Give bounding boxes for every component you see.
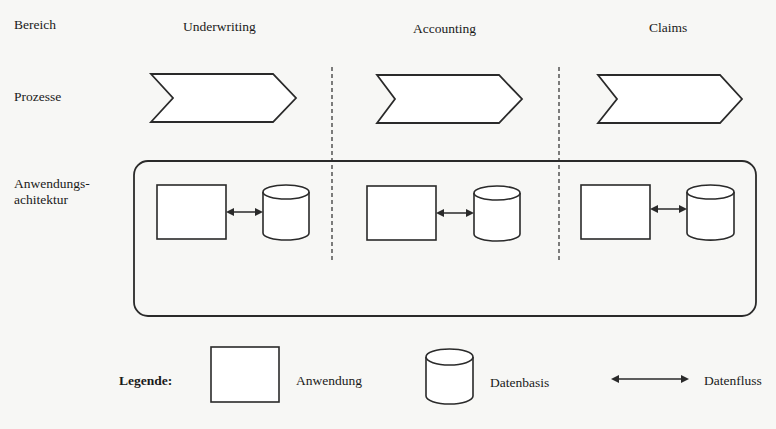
- database-cylinder-icon: [426, 349, 473, 404]
- process-chevron-claims: [598, 75, 742, 123]
- diagram-graphics: [0, 0, 776, 429]
- row-label-bereich: Bereich: [14, 17, 56, 33]
- process-chevron-underwriting: [151, 74, 296, 122]
- application-box-underwriting: [157, 185, 226, 239]
- column-header-accounting: Accounting: [413, 21, 476, 37]
- legend-label-datenbasis: Datenbasis: [490, 375, 549, 391]
- legend-title: Legende:: [119, 373, 172, 389]
- application-box-claims: [581, 185, 650, 239]
- database-cylinder-accounting: [474, 186, 520, 241]
- application-box-accounting: [367, 186, 436, 240]
- row-label-anwendungsarchitektur-line2: achitektur: [14, 192, 68, 208]
- column-header-underwriting: Underwriting: [183, 19, 256, 35]
- legend-label-datenfluss: Datenfluss: [704, 373, 762, 389]
- database-cylinder-claims: [687, 185, 734, 240]
- application-architecture-container: [134, 161, 756, 316]
- row-label-prozesse: Prozesse: [14, 89, 61, 105]
- database-cylinder-underwriting: [263, 185, 309, 240]
- row-label-anwendungsarchitektur-line1: Anwendungs-: [14, 176, 90, 192]
- architecture-diagram: Bereich Prozesse Anwendungs- achitektur …: [0, 0, 776, 429]
- application-rectangle-icon: [211, 347, 279, 402]
- column-header-claims: Claims: [649, 20, 687, 36]
- legend-label-anwendung: Anwendung: [296, 373, 362, 389]
- process-chevron-accounting: [377, 75, 522, 123]
